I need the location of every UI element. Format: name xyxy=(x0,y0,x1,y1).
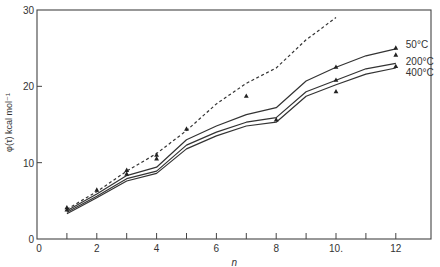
y-tick-label: 30 xyxy=(23,5,35,16)
triangle-marker xyxy=(334,89,339,93)
series-annotation: 50°C xyxy=(406,39,428,50)
chart: 0246810.120102030nφ(τ) kcal mol⁻¹50°C200… xyxy=(0,0,440,267)
x-tick-label: 2 xyxy=(94,243,100,254)
plot-labels: 0246810.120102030nφ(τ) kcal mol⁻¹50°C200… xyxy=(4,5,434,267)
plot-axes xyxy=(37,10,431,239)
series-line-dashed xyxy=(67,18,336,210)
triangle-marker xyxy=(154,156,159,160)
data-points xyxy=(65,45,399,211)
series-line-400c xyxy=(67,68,396,214)
x-tick-label: 12 xyxy=(390,243,402,254)
x-tick-label: 6 xyxy=(214,243,220,254)
y-tick-label: 10 xyxy=(23,158,35,169)
triangle-marker xyxy=(124,171,129,175)
triangle-marker xyxy=(393,52,398,56)
triangle-marker xyxy=(94,187,99,191)
x-tick-label: 10. xyxy=(329,243,343,254)
triangle-marker xyxy=(244,93,249,97)
triangle-marker xyxy=(393,45,398,49)
plot-series xyxy=(67,18,396,214)
x-axis-label: n xyxy=(232,257,238,267)
series-line-200c xyxy=(67,63,396,212)
y-tick-label: 0 xyxy=(28,234,34,245)
plot-frame xyxy=(37,10,431,239)
series-annotation: 400°C xyxy=(406,67,434,78)
series-annotation: 200°C xyxy=(406,56,434,67)
y-tick-label: 20 xyxy=(23,81,35,92)
x-tick-label: 8 xyxy=(273,243,279,254)
x-tick-label: 0 xyxy=(36,243,42,254)
x-tick-label: 4 xyxy=(154,243,160,254)
y-axis-label: φ(τ) kcal mol⁻¹ xyxy=(4,93,14,152)
triangle-marker xyxy=(393,64,398,68)
